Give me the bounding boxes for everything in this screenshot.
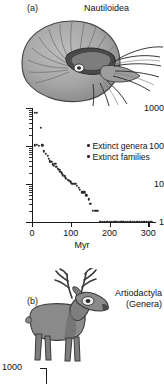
y-tick-minor bbox=[29, 123, 33, 124]
y-tick-minor bbox=[29, 148, 33, 149]
x-tick-label: 200 bbox=[102, 228, 117, 238]
legend-item-genera: Extinct genera bbox=[86, 140, 150, 151]
data-point bbox=[38, 145, 40, 147]
nautilus-shell-illustration bbox=[8, 16, 164, 106]
y-axis-line bbox=[32, 108, 33, 223]
y-tick-minor bbox=[29, 135, 33, 136]
y-tick-minor bbox=[29, 173, 33, 174]
y-tick-minor bbox=[29, 157, 33, 158]
legend-marker-dot bbox=[87, 144, 90, 147]
legend-label-genera: Extinct genera bbox=[93, 141, 148, 151]
data-point bbox=[96, 209, 98, 211]
data-point bbox=[87, 198, 89, 200]
x-tick-major bbox=[32, 222, 33, 227]
data-point bbox=[41, 144, 43, 146]
x-tick-major bbox=[71, 222, 72, 227]
y-tick-minor bbox=[29, 204, 33, 205]
data-point bbox=[89, 203, 91, 205]
chart-legend: Extinct genera Extinct families bbox=[86, 140, 150, 162]
y-tick-minor bbox=[29, 150, 33, 151]
deer-illustration bbox=[22, 268, 114, 368]
extinction-scatter-chart: 1101001000 0100200300 Extinct genera Ext… bbox=[0, 100, 164, 250]
legend-label-families: Extinct families bbox=[93, 152, 150, 162]
y-tick-minor bbox=[29, 211, 33, 212]
data-point bbox=[39, 127, 41, 129]
panel-a-tag: (a) bbox=[27, 3, 38, 13]
x-tick-label: 300 bbox=[141, 228, 156, 238]
bottom-partial-chart bbox=[0, 356, 164, 384]
y-tick-minor bbox=[29, 110, 33, 111]
y-tick-minor bbox=[29, 112, 33, 113]
y-tick-minor bbox=[29, 119, 33, 120]
data-point bbox=[36, 112, 38, 114]
y-tick-minor bbox=[29, 154, 33, 155]
y-tick-minor bbox=[29, 192, 33, 193]
x-tick-label: 100 bbox=[63, 228, 78, 238]
y-tick-minor bbox=[29, 152, 33, 153]
legend-marker-dot bbox=[87, 155, 90, 158]
y-tick-minor bbox=[29, 188, 33, 189]
y-tick-minor bbox=[29, 199, 33, 200]
bottom-chart-y-label: 1000 bbox=[2, 362, 22, 372]
y-tick-minor bbox=[29, 195, 33, 196]
y-tick-minor bbox=[29, 190, 33, 191]
y-tick-minor bbox=[29, 114, 33, 115]
legend-item-families: Extinct families bbox=[86, 151, 150, 162]
y-tick-minor bbox=[29, 128, 33, 129]
y-tick-minor bbox=[29, 166, 33, 167]
y-tick-minor bbox=[29, 116, 33, 117]
figure-root: (a) Nautiloidea bbox=[0, 0, 164, 384]
x-tick-label: 0 bbox=[29, 228, 34, 238]
panel-a-title: Nautiloidea bbox=[84, 3, 129, 13]
y-tick-minor bbox=[29, 186, 33, 187]
y-tick-label: 10 bbox=[140, 179, 164, 189]
y-tick-label: 1000 bbox=[140, 103, 164, 113]
data-point bbox=[85, 194, 87, 196]
y-tick-minor bbox=[29, 161, 33, 162]
x-axis-title: Myr bbox=[0, 240, 164, 250]
bottom-chart-axis-vertical bbox=[46, 368, 47, 384]
